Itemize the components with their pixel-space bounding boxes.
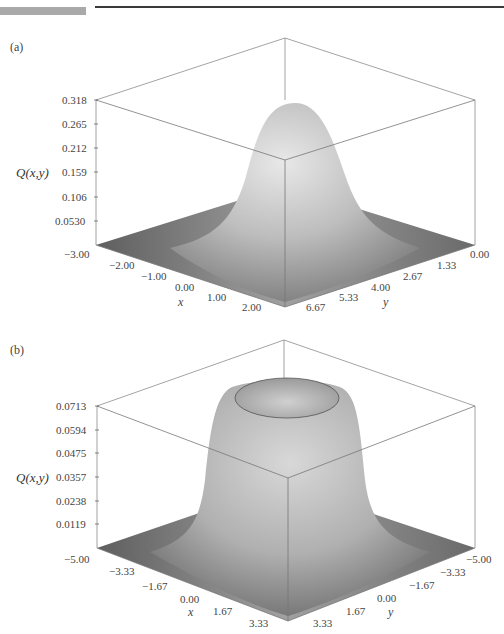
x-tick-b: −1.67 xyxy=(142,580,167,592)
x-tick-a: 1.00 xyxy=(207,291,226,303)
x-tick-a: 2.00 xyxy=(242,301,261,313)
x-tick-b: 1.67 xyxy=(213,605,232,617)
y-tick-a: 5.33 xyxy=(339,291,358,303)
z-tick-b: 0.0119 xyxy=(56,518,86,530)
x-tick-b: 0.00 xyxy=(180,593,199,605)
x-tick-b: 3.33 xyxy=(249,617,268,629)
x-tick-b: −3.33 xyxy=(109,565,134,577)
y-tick-b: 0.00 xyxy=(377,592,396,604)
z-tick-a: 0.159 xyxy=(62,166,87,178)
z-tick-b: 0.0357 xyxy=(56,471,86,483)
x-tick-b: −5.00 xyxy=(64,553,89,565)
z-axis-label-b: Q(x,y) xyxy=(16,470,49,486)
y-tick-b: −5.00 xyxy=(466,553,491,565)
x-axis-label-a: x xyxy=(178,295,183,310)
panel-label-b: (b) xyxy=(10,343,24,358)
x-tick-a: 0.00 xyxy=(175,281,194,293)
z-tick-a: 0.212 xyxy=(62,142,87,154)
ring-crater-b xyxy=(235,378,339,418)
x-tick-a: −3.00 xyxy=(64,248,89,260)
z-tick-a: 0.265 xyxy=(62,118,87,130)
z-tick-b: 0.0594 xyxy=(56,424,86,436)
y-tick-a: 1.33 xyxy=(437,259,456,271)
y-tick-a: 6.67 xyxy=(306,301,325,313)
z-tick-a: 0.0530 xyxy=(55,215,85,227)
y-tick-a: 4.00 xyxy=(371,281,390,293)
z-tick-b: 0.0713 xyxy=(56,400,86,412)
z-axis-label-a: Q(x,y) xyxy=(16,165,49,181)
x-tick-a: −2.00 xyxy=(109,259,134,271)
y-tick-b: −3.33 xyxy=(440,566,465,578)
y-tick-a: 2.67 xyxy=(403,270,422,282)
z-tick-b: 0.0475 xyxy=(56,447,86,459)
y-tick-b: −1.67 xyxy=(409,579,434,591)
z-tick-a: 0.106 xyxy=(62,191,87,203)
panel-label-a: (a) xyxy=(10,40,23,55)
x-axis-label-b: x xyxy=(188,605,193,620)
y-tick-b: 1.67 xyxy=(346,605,365,617)
y-tick-b: 3.33 xyxy=(313,617,332,629)
z-axis-label-text-b: Q(x,y) xyxy=(16,470,49,485)
z-axis-label-text-a: Q(x,y) xyxy=(16,165,49,180)
z-tick-a: 0.318 xyxy=(62,94,87,106)
y-axis-label-a: y xyxy=(383,295,388,310)
z-tick-b: 0.0238 xyxy=(56,495,86,507)
y-axis-label-b: y xyxy=(388,605,393,620)
x-tick-a: −1.00 xyxy=(141,270,166,282)
y-tick-a: 0.00 xyxy=(470,248,489,260)
